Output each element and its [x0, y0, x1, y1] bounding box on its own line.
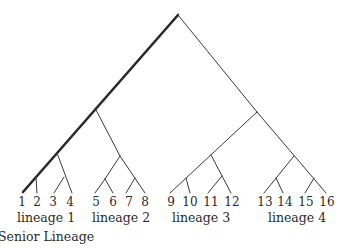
leaf-label-16: 16 [319, 195, 334, 209]
lineage-label-4: lineage 4 [268, 210, 326, 225]
leaf-label-2: 2 [33, 195, 41, 209]
leaf-label-14: 14 [277, 195, 292, 209]
leaf-label-13: 13 [257, 195, 272, 209]
leaf-label-6: 6 [109, 195, 117, 209]
branch-leaf-15 [305, 178, 314, 193]
leaf-label-3: 3 [49, 195, 57, 209]
branch-leaf-3 [54, 177, 64, 193]
branch-l2-right [120, 156, 145, 193]
branch-to-l1-34 [57, 153, 72, 193]
branch-leaf-7 [126, 178, 135, 193]
senior-lineage-label: Senior Lineage [0, 229, 94, 244]
lineage-label-2: lineage 2 [92, 210, 150, 225]
branch-leaf-5 [95, 179, 105, 193]
branch-l4-left [264, 156, 294, 193]
lineage-label-3: lineage 3 [172, 210, 230, 225]
leaf-label-9: 9 [167, 195, 175, 209]
branch-l2-left [105, 156, 120, 179]
branch-l34-to-l3 [170, 112, 257, 193]
leaf-label-7: 7 [125, 195, 133, 209]
leaf-label-1: 1 [18, 195, 26, 209]
branch-leaf-2 [36, 177, 37, 193]
leaf-label-12: 12 [224, 195, 239, 209]
branch-root-to-l34 [178, 15, 257, 112]
leaf-label-4: 4 [66, 195, 74, 209]
branch-leaf-11 [208, 176, 222, 193]
branch-leaf-10 [186, 178, 190, 193]
branch-leaf-14 [276, 178, 283, 193]
leaf-label-15: 15 [298, 195, 313, 209]
branch-leaf-6 [105, 179, 113, 193]
lineage-label-1: lineage 1 [17, 210, 75, 225]
leaf-label-10: 10 [182, 195, 197, 209]
leaf-label-8: 8 [141, 195, 149, 209]
branch-l34-to-l4 [257, 112, 326, 193]
branch-to-lineage-2 [95, 108, 120, 156]
senior-lineage-branch [23, 15, 178, 192]
leaf-label-11: 11 [203, 195, 218, 209]
leaf-label-5: 5 [92, 195, 100, 209]
branch-l3-right [211, 155, 231, 193]
